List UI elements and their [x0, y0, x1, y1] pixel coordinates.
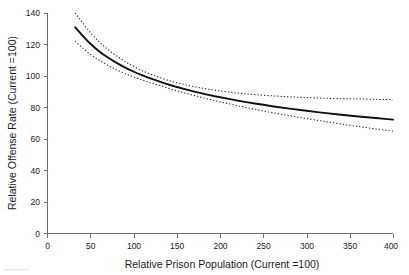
y-tick-label-40: 40 — [31, 166, 41, 176]
chart-figure: 0 20 40 60 80 100 120 140 0 50 100 150 2… — [0, 0, 409, 275]
y-axis-ticks: 0 20 40 60 80 100 120 140 — [26, 8, 48, 239]
y-tick-label-80: 80 — [31, 103, 41, 113]
x-axis-title: Relative Prison Population (Current =100… — [125, 258, 320, 270]
x-tick-label-250: 250 — [257, 241, 271, 251]
upper-confidence-band — [75, 13, 393, 100]
y-tick-label-60: 60 — [31, 134, 41, 144]
x-tick-label-200: 200 — [213, 241, 227, 251]
x-tick-label-100: 100 — [127, 241, 141, 251]
y-tick-label-140: 140 — [26, 8, 40, 18]
x-tick-label-0: 0 — [45, 241, 50, 251]
offense-rate-curve — [75, 27, 393, 119]
y-axis-title: Relative Offense Rate (Current =100) — [6, 36, 18, 210]
x-tick-label-50: 50 — [86, 241, 96, 251]
data-series-group — [75, 13, 393, 131]
x-tick-label-350: 350 — [343, 241, 357, 251]
relative-offense-rate-chart: 0 20 40 60 80 100 120 140 0 50 100 150 2… — [0, 0, 409, 275]
y-tick-label-0: 0 — [35, 229, 40, 239]
scan-artifact — [4, 269, 30, 270]
y-tick-label-120: 120 — [26, 40, 40, 50]
x-tick-label-150: 150 — [170, 241, 184, 251]
y-tick-label-100: 100 — [26, 71, 40, 81]
axes — [47, 13, 393, 234]
x-axis-ticks: 0 50 100 150 200 250 300 350 400 — [45, 234, 398, 252]
x-tick-label-400: 400 — [384, 241, 398, 251]
lower-confidence-band — [75, 41, 393, 131]
y-tick-label-20: 20 — [31, 197, 41, 207]
x-tick-label-300: 300 — [300, 241, 314, 251]
